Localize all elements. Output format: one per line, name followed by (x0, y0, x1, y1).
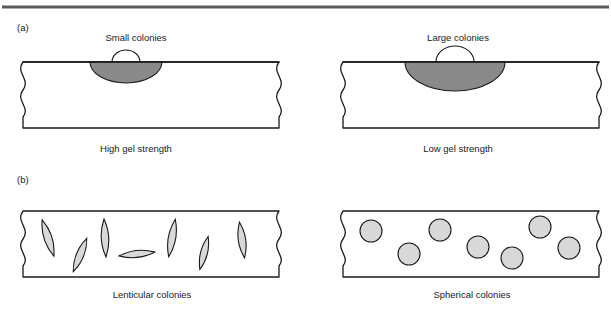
colony-dome-a-left-upper (112, 50, 140, 62)
diagram-canvas: (a) Small colonies High gel strength Lar… (0, 0, 611, 313)
panel-b-left: Lenticular colonies (21, 211, 282, 300)
panel-b-left-caption: Lenticular colonies (113, 289, 192, 300)
panel-b-right-caption: Spherical colonies (433, 289, 510, 300)
spherical-colony (558, 237, 580, 259)
colony-dome-a-right-upper (436, 46, 474, 62)
panel-a-right: Large colonies Low gel strength (341, 32, 602, 154)
panel-a-right-colony-label: Large colonies (427, 32, 489, 43)
panel-a-left-colony-label: Small colonies (105, 32, 166, 43)
panel-a-left: Small colonies High gel strength (21, 32, 282, 154)
panel-a-right-caption: Low gel strength (423, 143, 493, 154)
panel-b: (b) Lenticular colonies (17, 174, 601, 300)
spherical-colony (529, 216, 551, 238)
spherical-colony (467, 236, 489, 258)
panel-b-right: Spherical colonies (341, 211, 602, 300)
panel-b-label: (b) (17, 174, 29, 185)
spherical-colony (501, 247, 523, 269)
spherical-colony (360, 220, 382, 242)
spherical-colony (429, 219, 451, 241)
figure-root: (a) Small colonies High gel strength Lar… (0, 0, 611, 313)
panel-a: (a) Small colonies High gel strength Lar… (17, 22, 601, 154)
panel-a-left-caption: High gel strength (100, 143, 172, 154)
panel-a-label: (a) (17, 22, 29, 33)
spherical-colony (398, 243, 420, 265)
